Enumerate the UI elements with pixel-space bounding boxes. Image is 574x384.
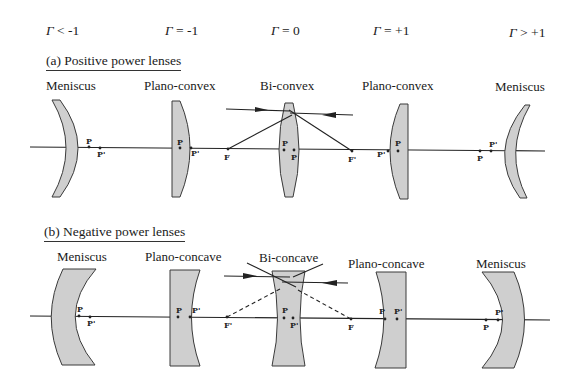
virtual-ray-to-f-prime xyxy=(227,289,280,317)
label-p-prime: P' xyxy=(87,318,95,328)
lens-diagram: P P' P P' F F' P P P' P P P' P P' P P' xyxy=(0,0,574,384)
lens-bi-concave xyxy=(272,271,305,366)
lens-positive-plano-convex-left xyxy=(172,101,190,197)
label-f: F xyxy=(348,322,354,332)
label-p-prime: P' xyxy=(489,139,497,149)
label-p: P xyxy=(176,305,182,315)
principal-point-p xyxy=(397,150,400,153)
lens-positive-meniscus-right xyxy=(505,105,530,198)
label-p: P xyxy=(86,136,92,146)
label-p-prime: P xyxy=(291,152,297,162)
principal-point-p xyxy=(179,147,182,150)
principal-point-p xyxy=(283,149,286,152)
label-p: P xyxy=(477,153,483,163)
label-p-prime: P' xyxy=(191,148,199,158)
principal-point-p xyxy=(479,150,482,153)
arrow-icon xyxy=(243,273,257,279)
label-p-prime: P' xyxy=(192,305,200,315)
incident-ray-right xyxy=(290,113,353,115)
principal-point-p-prime xyxy=(189,316,192,319)
label-p: P xyxy=(483,322,489,332)
focal-point-f-prime xyxy=(226,316,229,319)
focal-point-f-prime xyxy=(351,150,354,153)
focal-point-f xyxy=(227,148,230,151)
label-p-prime: P' xyxy=(394,306,402,316)
principal-point-p xyxy=(88,146,91,149)
label-p: P xyxy=(282,305,288,315)
label-f-prime: F' xyxy=(348,154,356,164)
label-p: P xyxy=(177,137,183,147)
label-f: F xyxy=(224,152,230,162)
lens-negative-plano-concave-left xyxy=(170,270,200,366)
principal-point-p-prime xyxy=(396,318,399,321)
principal-point-p-prime xyxy=(293,149,296,152)
arrow-icon xyxy=(255,107,268,112)
lens-positive-meniscus-left xyxy=(52,100,78,197)
label-p: P xyxy=(395,138,401,148)
label-f-prime: F' xyxy=(224,320,232,330)
label-p: P xyxy=(77,304,83,314)
principal-point-p-prime xyxy=(387,150,390,153)
label-p-prime: P' xyxy=(290,320,298,330)
principal-point-p xyxy=(78,315,81,318)
principal-point-p-prime xyxy=(292,317,295,320)
principal-point-p xyxy=(485,319,488,322)
label-p-prime: P' xyxy=(495,307,503,317)
arrow-icon xyxy=(322,112,336,118)
label-p: P xyxy=(282,138,288,148)
principal-point-p xyxy=(283,317,286,320)
principal-point-p-prime xyxy=(490,150,493,153)
lens-negative-plano-concave-right xyxy=(375,272,406,368)
focal-point-f xyxy=(350,318,353,321)
principal-point-p xyxy=(384,318,387,321)
label-p-prime: P' xyxy=(377,149,385,159)
principal-point-p xyxy=(177,316,180,319)
arrow-icon xyxy=(322,280,337,286)
label-p-prime: P' xyxy=(97,149,105,159)
principal-point-p-prime xyxy=(497,319,500,322)
virtual-ray-to-f xyxy=(298,290,351,319)
label-p: P xyxy=(379,306,385,316)
